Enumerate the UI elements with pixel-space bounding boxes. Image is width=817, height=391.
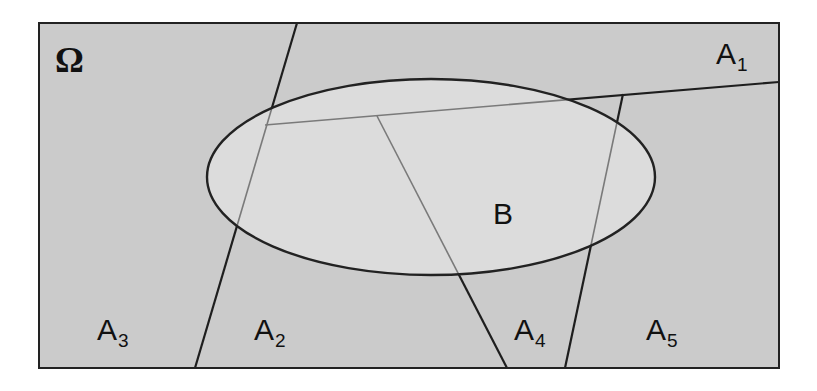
- partition-diagram: Ω B A1A2A3A4A5: [0, 0, 817, 391]
- event-b-region: [207, 79, 655, 275]
- omega-label: Ω: [55, 40, 84, 80]
- event-b-label: B: [493, 197, 513, 230]
